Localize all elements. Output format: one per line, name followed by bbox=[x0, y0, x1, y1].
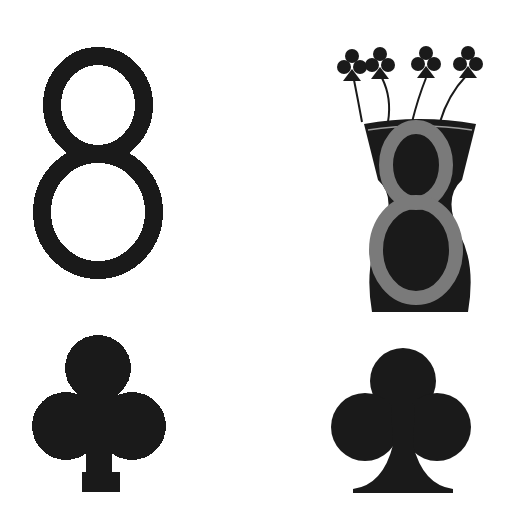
club-suit-pixelated-icon bbox=[28, 322, 173, 502]
vase-with-flowers-icon bbox=[330, 40, 510, 320]
club-pixelated-panel bbox=[28, 322, 173, 502]
club-smooth-panel bbox=[325, 345, 480, 505]
vase-panel bbox=[330, 40, 510, 320]
club-suit-smooth-icon bbox=[325, 345, 480, 505]
digit-eight-icon bbox=[28, 45, 173, 290]
eight-pixelated-panel bbox=[28, 45, 173, 290]
club-flowers bbox=[337, 46, 483, 81]
